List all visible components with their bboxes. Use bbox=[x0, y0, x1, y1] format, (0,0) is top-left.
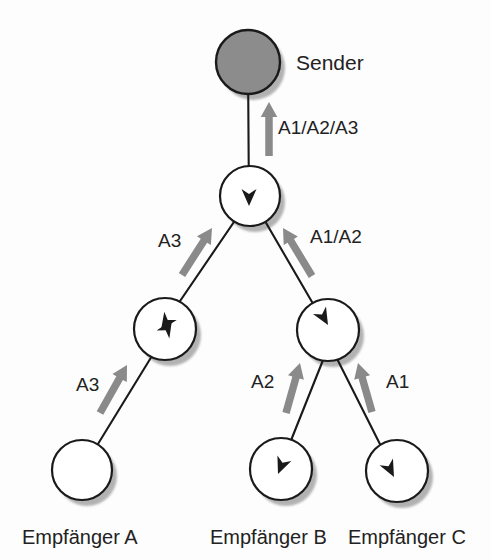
flow-label-flow-right-upper: A1/A2 bbox=[310, 227, 362, 246]
flow-label-flow-trunk: A1/A2/A3 bbox=[278, 118, 358, 137]
sender-label: Sender bbox=[296, 52, 364, 73]
flow-label-flow-left-upper: A3 bbox=[158, 231, 181, 250]
flow-arrow-shape bbox=[261, 102, 278, 156]
flow-arrow-flow-left-upper bbox=[175, 224, 219, 280]
flow-arrow-layer bbox=[93, 102, 380, 417]
receiver-label-B: Empfänger B bbox=[210, 527, 327, 547]
flow-arrow-flow-trunk bbox=[261, 102, 278, 156]
node-sender[interactable] bbox=[216, 30, 280, 94]
diagram-canvas bbox=[0, 0, 491, 560]
node-router3[interactable] bbox=[297, 299, 359, 361]
receiver-label-C: Empfänger C bbox=[348, 527, 466, 547]
flow-label-flow-recvC: A1 bbox=[386, 372, 409, 391]
flow-label-flow-left-lower: A3 bbox=[76, 375, 99, 394]
flow-label-flow-recvB: A2 bbox=[251, 372, 274, 391]
multicast-diagram: A1/A2/A3A3A1/A2A3A2A1SenderEmpfänger AEm… bbox=[0, 0, 491, 560]
flow-arrow-shape bbox=[175, 224, 219, 280]
flow-arrow-flow-recvC bbox=[350, 361, 380, 415]
node-layer bbox=[52, 30, 428, 502]
node-recvA[interactable] bbox=[52, 440, 112, 500]
receiver-label-A: Empfänger A bbox=[22, 527, 138, 547]
node-recvC[interactable] bbox=[366, 440, 428, 502]
flow-arrow-shape bbox=[350, 361, 380, 415]
